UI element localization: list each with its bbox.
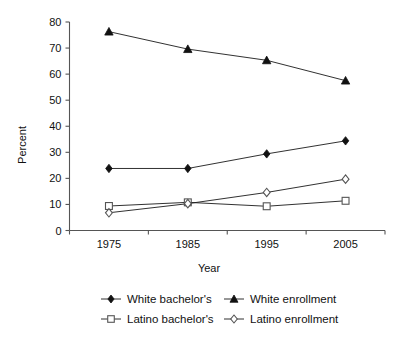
marker-open-square [108,316,115,323]
y-axis-tick-labels: 01020304050607080 [49,16,61,237]
y-tick-label: 40 [49,120,61,132]
y-tick-label: 10 [49,198,61,210]
series-path [109,32,346,81]
legend-label: Latino enrollment [250,313,339,325]
legend-entry[interactable]: Latino enrollment [224,313,339,325]
marker-open-square [342,197,349,204]
marker-open-diamond [263,188,270,196]
legend-label: White bachelor's [127,293,212,305]
marker-filled-diamond [108,295,114,303]
marker-open-square [263,203,270,210]
y-tick-label: 30 [49,146,61,158]
legend-label: Latino bachelor's [127,313,214,325]
y-axis-ticks [66,22,70,231]
marker-open-diamond [342,175,349,183]
legend-entry[interactable]: Latino bachelor's [101,313,214,325]
marker-open-diamond [231,315,238,323]
series-path [109,179,346,213]
marker-filled-diamond [342,137,349,145]
x-tick-label: 1995 [254,238,278,250]
x-tick-label: 1975 [97,238,121,250]
marker-filled-diamond [263,150,270,158]
legend-entry[interactable]: White enrollment [224,293,337,305]
legend-label: White enrollment [250,293,337,305]
y-tick-label: 70 [49,42,61,54]
series-open-square [105,197,349,209]
x-axis-tick-labels: 1975198519952005 [97,238,358,250]
y-tick-label: 50 [49,94,61,106]
series-filled-triangle [105,27,350,84]
chart-legend: White bachelor'sWhite enrollmentLatino b… [101,293,339,325]
x-tick-label: 1985 [176,238,200,250]
series-path [109,201,346,206]
marker-filled-triangle [105,27,113,35]
y-tick-label: 80 [49,16,61,28]
series-path [109,141,346,169]
y-axis-title: Percent [16,126,28,164]
series-open-diamond [105,175,349,217]
marker-filled-diamond [185,164,192,172]
x-axis-title: Year [198,262,221,274]
series-layer [105,27,350,217]
marker-filled-diamond [106,164,113,172]
legend-entry[interactable]: White bachelor's [101,293,212,305]
x-tick-label: 2005 [333,238,357,250]
y-tick-label: 0 [55,225,61,237]
y-tick-label: 60 [49,68,61,80]
series-filled-diamond [106,137,349,173]
x-axis-ticks [70,231,386,235]
line-chart: Percent Year 01020304050607080 197519851… [0,0,403,341]
y-tick-label: 20 [49,172,61,184]
